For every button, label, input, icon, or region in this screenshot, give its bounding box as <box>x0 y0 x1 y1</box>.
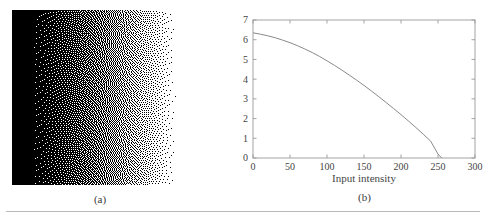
x-tick-label: 300 <box>468 161 483 172</box>
y-tick-label: 0.2 <box>243 113 248 124</box>
y-tick-label: 0.6 <box>243 34 248 45</box>
y-tick-label: 0.7 <box>243 14 248 25</box>
dithered-halftone-image <box>12 10 186 185</box>
y-tick-label: 0.5 <box>243 54 248 65</box>
x-tick-label: 50 <box>285 161 295 172</box>
line-chart: 050100150200250300 00.10.20.30.40.50.60.… <box>243 0 486 200</box>
x-tick-label: 250 <box>431 161 446 172</box>
caption-panel-b: (b) <box>243 191 486 203</box>
x-axis-tick-labels: 050100150200250300 <box>251 161 483 172</box>
x-axis-label: Input intensity <box>332 172 396 184</box>
bottom-divider <box>6 211 480 212</box>
y-tick-label: 0 <box>243 152 248 163</box>
plot-frame <box>253 20 475 158</box>
figure-container: (a) 050100150200250300 00.10.20.30.40.50… <box>0 0 486 220</box>
panel-a <box>0 0 243 220</box>
x-tick-label: 150 <box>357 161 372 172</box>
y-tick-label: 0.4 <box>243 74 248 85</box>
panel-b: 050100150200250300 00.10.20.30.40.50.60.… <box>243 0 486 220</box>
output-intensity-curve <box>253 33 442 158</box>
x-tick-label: 0 <box>251 161 256 172</box>
x-axis-ticks <box>253 20 475 158</box>
y-tick-label: 0.3 <box>243 93 248 104</box>
x-tick-label: 100 <box>320 161 335 172</box>
y-axis-tick-labels: 00.10.20.30.40.50.60.7 <box>243 14 248 163</box>
caption-panel-a: (a) <box>0 193 200 205</box>
y-axis-ticks <box>253 20 475 158</box>
x-tick-label: 200 <box>394 161 409 172</box>
y-tick-label: 0.1 <box>243 133 248 144</box>
